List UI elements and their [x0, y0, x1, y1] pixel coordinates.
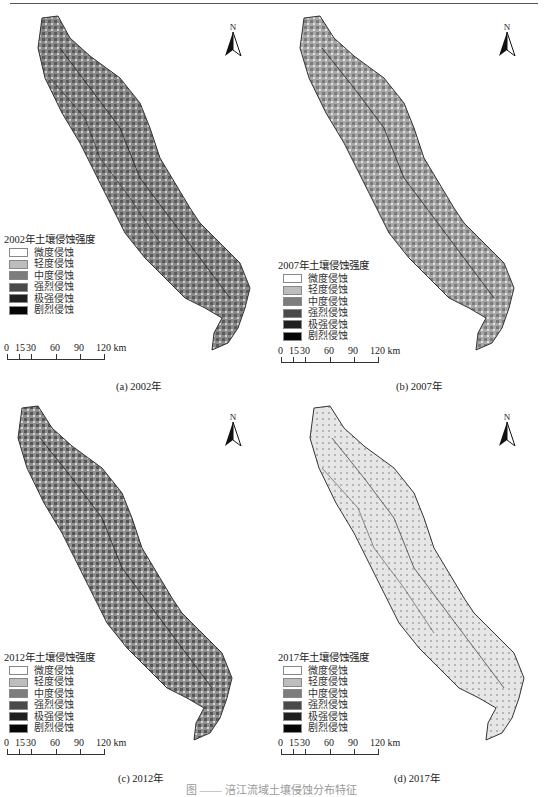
- legend-title: 2017年土壤侵蚀强度: [278, 652, 369, 664]
- scale-tick-label: 30: [26, 737, 36, 748]
- north-label: N: [223, 22, 243, 32]
- map-panel-2002: N 2002年土壤侵蚀强度 微度侵蚀轻度侵蚀中度侵蚀强烈侵蚀极强侵蚀剧烈侵蚀 0…: [0, 8, 274, 393]
- legend-item: 极强侵蚀: [9, 293, 95, 305]
- legend-label: 轻度侵蚀: [308, 284, 348, 296]
- legend-label: 轻度侵蚀: [34, 258, 74, 270]
- legend-item: 极强侵蚀: [283, 319, 369, 331]
- legend-swatch: [283, 678, 302, 687]
- panel-caption: (a) 2002年: [116, 378, 161, 393]
- legend-swatch: [9, 712, 28, 721]
- legend-swatch: [9, 678, 28, 687]
- legend-item: 极强侵蚀: [9, 711, 95, 723]
- scale-tick-label: 15: [15, 737, 25, 748]
- legend-item: 中度侵蚀: [283, 296, 369, 308]
- legend-label: 强烈侵蚀: [34, 699, 74, 711]
- scale-tick-label: 120 km: [370, 737, 400, 748]
- legend-swatch: [283, 724, 302, 733]
- legend-swatch: [9, 248, 28, 257]
- north-label: N: [223, 412, 243, 422]
- scale-tick-label: 90: [74, 342, 84, 353]
- legend-swatch: [9, 271, 28, 280]
- legend-label: 轻度侵蚀: [308, 676, 348, 688]
- north-arrow-icon: [497, 422, 517, 446]
- legend-item: 微度侵蚀: [9, 247, 95, 259]
- legend-swatch: [9, 689, 28, 698]
- scale-tick-label: 15: [289, 737, 299, 748]
- scale-tick-label: 60: [50, 342, 60, 353]
- scale-tick-label: 90: [74, 737, 84, 748]
- north-arrow-icon: [497, 32, 517, 56]
- scale-tick-label: 15: [289, 345, 299, 356]
- scale-labels: 015306090120 km: [4, 342, 134, 354]
- legend-item: 微度侵蚀: [9, 665, 95, 677]
- panel-caption: (d) 2017年: [394, 770, 440, 785]
- legend-item: 强烈侵蚀: [9, 700, 95, 712]
- scale-line: [7, 749, 105, 755]
- legend: 2017年土壤侵蚀强度 微度侵蚀轻度侵蚀中度侵蚀强烈侵蚀极强侵蚀剧烈侵蚀: [278, 652, 369, 734]
- legend-swatch: [9, 283, 28, 292]
- scale-line: [7, 354, 105, 360]
- legend-item: 强烈侵蚀: [9, 282, 95, 294]
- scale-tick-label: 60: [324, 345, 334, 356]
- legend-item: 轻度侵蚀: [283, 285, 369, 297]
- north-label: N: [497, 22, 517, 32]
- legend-item: 剧烈侵蚀: [283, 331, 369, 343]
- scale-tick-label: 0: [4, 737, 9, 748]
- legend-swatch: [283, 274, 302, 283]
- legend-label: 中度侵蚀: [34, 688, 74, 700]
- legend-swatch: [9, 306, 28, 315]
- legend-item: 轻度侵蚀: [9, 677, 95, 689]
- legend-label: 中度侵蚀: [34, 270, 74, 282]
- legend-label: 剧烈侵蚀: [34, 304, 74, 316]
- map-panel-2012: N 2012年土壤侵蚀强度 微度侵蚀轻度侵蚀中度侵蚀强烈侵蚀极强侵蚀剧烈侵蚀 0…: [0, 400, 274, 785]
- scale-bar: 015306090120 km: [278, 345, 408, 363]
- scale-labels: 015306090120 km: [4, 737, 134, 749]
- scale-bar: 015306090120 km: [4, 342, 134, 360]
- legend-rows: 微度侵蚀轻度侵蚀中度侵蚀强烈侵蚀极强侵蚀剧烈侵蚀: [278, 665, 369, 734]
- legend: 2002年土壤侵蚀强度 微度侵蚀轻度侵蚀中度侵蚀强烈侵蚀极强侵蚀剧烈侵蚀: [4, 234, 95, 316]
- scale-tick-label: 30: [26, 342, 36, 353]
- legend-title: 2007年土壤侵蚀强度: [278, 260, 369, 272]
- legend-label: 微度侵蚀: [34, 247, 74, 259]
- scale-tick-label: 60: [50, 737, 60, 748]
- erosion-map-2002: [0, 8, 274, 393]
- scale-tick-label: 60: [324, 737, 334, 748]
- scale-bar: 015306090120 km: [4, 737, 134, 755]
- north-arrow-icon: [223, 422, 243, 446]
- legend-swatch: [283, 332, 302, 341]
- legend-swatch: [283, 286, 302, 295]
- scale-line: [281, 749, 379, 755]
- legend-rows: 微度侵蚀轻度侵蚀中度侵蚀强烈侵蚀极强侵蚀剧烈侵蚀: [278, 273, 369, 342]
- legend-swatch: [283, 689, 302, 698]
- page-header-rule: [10, 3, 538, 4]
- legend-title: 2002年土壤侵蚀强度: [4, 234, 95, 246]
- legend-swatch: [283, 297, 302, 306]
- scale-labels: 015306090120 km: [278, 737, 408, 749]
- legend-label: 极强侵蚀: [308, 711, 348, 723]
- legend-item: 剧烈侵蚀: [9, 305, 95, 317]
- legend-item: 剧烈侵蚀: [283, 723, 369, 735]
- legend-item: 极强侵蚀: [283, 711, 369, 723]
- legend-label: 微度侵蚀: [308, 665, 348, 677]
- legend-rows: 微度侵蚀轻度侵蚀中度侵蚀强烈侵蚀极强侵蚀剧烈侵蚀: [4, 665, 95, 734]
- north-arrow-icon: [223, 32, 243, 56]
- legend: 2012年土壤侵蚀强度 微度侵蚀轻度侵蚀中度侵蚀强烈侵蚀极强侵蚀剧烈侵蚀: [4, 652, 95, 734]
- legend-label: 剧烈侵蚀: [308, 330, 348, 342]
- north-arrow: N: [223, 412, 243, 450]
- legend-swatch: [283, 712, 302, 721]
- north-arrow: N: [497, 412, 517, 450]
- legend-label: 中度侵蚀: [308, 688, 348, 700]
- legend-label: 轻度侵蚀: [34, 676, 74, 688]
- panel-caption: (c) 2012年: [118, 770, 163, 785]
- legend-label: 微度侵蚀: [308, 273, 348, 285]
- legend-rows: 微度侵蚀轻度侵蚀中度侵蚀强烈侵蚀极强侵蚀剧烈侵蚀: [4, 247, 95, 316]
- north-arrow: N: [223, 22, 243, 60]
- north-label: N: [497, 412, 517, 422]
- legend-item: 轻度侵蚀: [9, 259, 95, 271]
- legend-label: 强烈侵蚀: [308, 307, 348, 319]
- legend-item: 强烈侵蚀: [283, 308, 369, 320]
- legend-item: 强烈侵蚀: [283, 700, 369, 712]
- scale-labels: 015306090120 km: [278, 345, 408, 357]
- legend-label: 强烈侵蚀: [308, 699, 348, 711]
- legend-label: 中度侵蚀: [308, 296, 348, 308]
